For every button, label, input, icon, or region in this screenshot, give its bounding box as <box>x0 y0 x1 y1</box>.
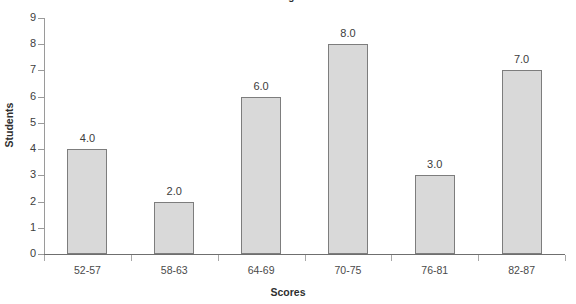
x-axis-tick <box>391 255 392 261</box>
x-axis-tick <box>218 255 219 261</box>
x-axis-tick <box>478 255 479 261</box>
x-axis-tick <box>131 255 132 261</box>
x-axis-category-label: 82-87 <box>508 264 535 276</box>
x-axis-category-label: 52-57 <box>74 264 101 276</box>
bar[interactable] <box>502 70 542 254</box>
y-axis-tick-label: 5 <box>2 116 36 128</box>
x-axis-title: Scores <box>0 286 576 298</box>
x-axis-tick <box>44 255 45 261</box>
y-axis-tick-label: 4 <box>2 142 36 154</box>
y-axis-tick-label: 3 <box>2 168 36 180</box>
bar[interactable] <box>67 149 107 254</box>
y-axis-tick-label: 1 <box>2 221 36 233</box>
bar-value-label: 2.0 <box>167 185 182 197</box>
y-axis-tick-label: 0 <box>2 247 36 259</box>
x-axis-category-label: 58-63 <box>161 264 188 276</box>
bar-value-label: 8.0 <box>340 27 355 39</box>
bar-value-label: 7.0 <box>514 53 529 65</box>
y-axis-tick-label: 2 <box>2 195 36 207</box>
chart-title: Histogram <box>0 0 576 2</box>
x-axis-tick <box>305 255 306 261</box>
y-axis-tick-label: 6 <box>2 90 36 102</box>
bar[interactable] <box>241 97 281 254</box>
y-axis-tick-label: 9 <box>2 11 36 23</box>
bar-value-label: 3.0 <box>427 158 442 170</box>
bar[interactable] <box>415 175 455 254</box>
y-axis-line <box>44 18 45 255</box>
bar[interactable] <box>328 44 368 254</box>
y-axis-tick-label: 7 <box>2 63 36 75</box>
x-axis-category-label: 76-81 <box>421 264 448 276</box>
x-axis-tick <box>565 255 566 261</box>
x-axis-category-label: 64-69 <box>248 264 275 276</box>
y-axis-tick-label: 8 <box>2 37 36 49</box>
bar-value-label: 6.0 <box>253 80 268 92</box>
x-axis-category-label: 70-75 <box>334 264 361 276</box>
bar-value-label: 4.0 <box>80 132 95 144</box>
histogram-chart: Histogram Students 9876543210 4.02.06.08… <box>0 0 576 304</box>
bar[interactable] <box>154 202 194 254</box>
